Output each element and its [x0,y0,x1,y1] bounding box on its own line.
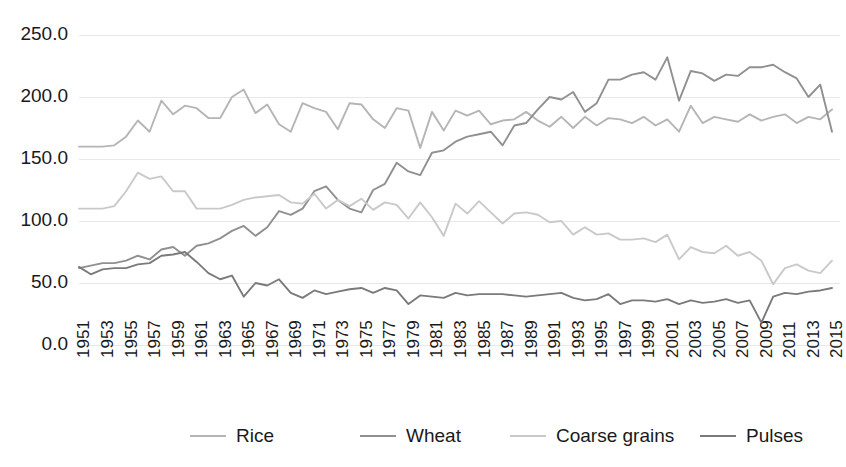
x-axis-tick-labels: 1951195319551957195919611963196519671969… [74,320,846,358]
y-tick-label: 0.0 [42,333,68,354]
x-tick-label: 1977 [380,320,399,358]
x-tick-label: 1999 [639,320,658,358]
y-tick-label: 100.0 [20,209,68,230]
chart-legend: RiceWheatCoarse grainsPulses [190,425,803,446]
y-tick-label: 50.0 [31,271,68,292]
x-tick-label: 1963 [216,320,235,358]
x-tick-label: 2001 [663,320,682,358]
y-tick-label: 150.0 [20,147,68,168]
x-tick-label: 1953 [98,320,117,358]
series-line-rice [79,90,832,148]
series-line-pulses [79,252,832,323]
legend-label-pulses[interactable]: Pulses [746,425,803,446]
series-line-wheat [79,57,832,268]
x-tick-label: 1997 [616,320,635,358]
x-tick-label: 1969 [286,320,305,358]
legend-label-rice[interactable]: Rice [236,425,274,446]
x-tick-label: 2011 [780,321,799,358]
x-tick-label: 2013 [804,320,823,358]
x-tick-label: 1991 [545,320,564,358]
x-tick-label: 1975 [357,320,376,358]
x-tick-label: 2015 [827,320,846,358]
x-tick-label: 1965 [239,320,258,358]
x-tick-label: 1951 [74,320,93,358]
series-line-coarse-grains [79,173,832,285]
x-tick-label: 2003 [686,320,705,358]
line-chart: 0.050.0100.0150.0200.0250.0 195119531955… [0,0,846,467]
x-tick-label: 1989 [522,320,541,358]
x-tick-label: 1959 [169,320,188,358]
legend-label-wheat[interactable]: Wheat [406,425,462,446]
x-tick-label: 1955 [122,320,141,358]
x-tick-label: 2009 [757,320,776,358]
x-tick-label: 1973 [333,320,352,358]
x-tick-label: 1981 [427,320,446,358]
x-tick-label: 1987 [498,320,517,358]
y-axis-tick-labels: 0.050.0100.0150.0200.0250.0 [20,23,68,354]
x-tick-label: 1993 [569,320,588,358]
x-tick-label: 1979 [404,320,423,358]
x-tick-label: 1995 [592,320,611,358]
x-tick-label: 1983 [451,320,470,358]
x-tick-label: 2005 [710,320,729,358]
x-tick-label: 1957 [145,320,164,358]
x-tick-label: 1961 [192,320,211,358]
y-tick-label: 250.0 [20,23,68,44]
x-tick-label: 1967 [263,320,282,358]
x-tick-label: 1985 [475,320,494,358]
legend-label-coarse-grains[interactable]: Coarse grains [556,425,674,446]
chart-container: 0.050.0100.0150.0200.0250.0 195119531955… [0,0,846,467]
x-tick-label: 1971 [310,320,329,358]
y-tick-label: 200.0 [20,85,68,106]
x-tick-label: 2007 [733,320,752,358]
